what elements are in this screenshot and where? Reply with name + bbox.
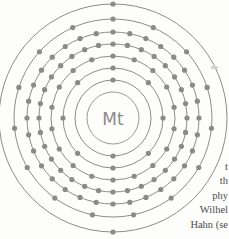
electron-shell-3-dot-10 bbox=[110, 177, 115, 182]
electron-shell-4-dot-30 bbox=[69, 54, 74, 59]
electron-shell-4-dot-17 bbox=[110, 189, 115, 194]
electron-shell-5-dot-10 bbox=[195, 132, 200, 137]
electron-shell-6-dot-9 bbox=[90, 212, 95, 217]
electron-shell-4-dot-8 bbox=[183, 101, 188, 106]
electron-shell-2-dot-8 bbox=[75, 80, 80, 85]
electron-shell-4-dot-25 bbox=[36, 115, 41, 120]
electron-shell-6-dot-7 bbox=[169, 195, 174, 200]
electron-shell-3-dot-11 bbox=[89, 174, 94, 179]
electron-shell-1-dot-1 bbox=[110, 77, 115, 82]
electron-shell-5-dot-1 bbox=[110, 29, 115, 34]
electron-shell-4-dot-2 bbox=[125, 43, 130, 48]
nucleus-element-symbol: Mt bbox=[102, 109, 124, 129]
electron-shell-5-dot-6 bbox=[182, 68, 187, 73]
electron-shell-3-dot-7 bbox=[164, 146, 169, 151]
electron-shell-4-dot-22 bbox=[49, 157, 54, 162]
side-text-line-4: Wilhel bbox=[180, 203, 228, 217]
electron-shell-3-dot-15 bbox=[49, 105, 54, 110]
electron-shell-6-dot-15 bbox=[70, 25, 75, 30]
electron-shell-3-dot-17 bbox=[71, 68, 76, 73]
electron-shell-4-dot-1 bbox=[110, 41, 115, 46]
electron-shell-5-dot-31 bbox=[77, 36, 82, 41]
side-text-line-2: th bbox=[180, 174, 228, 188]
electron-shell-6-dot-14 bbox=[37, 49, 42, 54]
electron-shell-3-dot-12 bbox=[71, 163, 76, 168]
electron-shell-6-dot-3 bbox=[184, 49, 189, 54]
scan-artifact-mark bbox=[211, 66, 218, 69]
electron-shell-4-dot-29 bbox=[58, 63, 63, 68]
electron-shell-7-dot-2 bbox=[110, 229, 115, 234]
side-text-line-5: Hahn (se bbox=[180, 218, 228, 232]
electron-shell-3-dot-6 bbox=[171, 126, 176, 131]
electron-shell-3-dot-1 bbox=[110, 53, 115, 58]
electron-shell-5-dot-19 bbox=[77, 195, 82, 200]
electron-shell-5-dot-18 bbox=[94, 200, 99, 205]
electron-shell-5-dot-21 bbox=[50, 176, 55, 181]
electron-shell-4-dot-19 bbox=[82, 184, 87, 189]
electron-shell-4-dot-5 bbox=[163, 63, 168, 68]
electron-shell-3-dot-16 bbox=[57, 84, 62, 89]
electron-shell-6-dot-1 bbox=[110, 16, 115, 21]
electron-shell-5-dot-14 bbox=[158, 187, 163, 192]
electron-shell-5-dot-20 bbox=[63, 187, 68, 192]
electron-shell-4-dot-24 bbox=[38, 130, 43, 135]
electron-shell-3-dot-4 bbox=[164, 84, 169, 89]
electron-shell-5-dot-16 bbox=[127, 200, 132, 205]
electron-shell-4-dot-14 bbox=[152, 177, 157, 182]
electron-shell-2-dot-2 bbox=[146, 80, 151, 85]
electron-shell-5-dot-23 bbox=[31, 148, 36, 153]
electron-shell-3-dot-9 bbox=[132, 174, 137, 179]
electron-shell-6-dot-8 bbox=[131, 212, 136, 217]
electron-shell-5-dot-30 bbox=[63, 44, 68, 49]
electron-shell-2-dot-5 bbox=[110, 165, 115, 170]
electron-shell-5-dot-3 bbox=[143, 36, 148, 41]
electron-shell-1-dot-2 bbox=[110, 153, 115, 158]
side-text-line-3: phy bbox=[180, 189, 228, 203]
electron-shell-4-dot-18 bbox=[96, 188, 101, 193]
electron-shell-5-dot-28 bbox=[39, 68, 44, 73]
electron-shell-4-dot-4 bbox=[152, 54, 157, 59]
electron-shell-2-dot-1 bbox=[110, 65, 115, 70]
electron-shell-4-dot-10 bbox=[183, 130, 188, 135]
electron-shell-2-dot-3 bbox=[160, 115, 165, 120]
electron-shell-4-dot-9 bbox=[184, 115, 189, 120]
electron-shell-4-dot-31 bbox=[82, 47, 87, 52]
electron-shell-6-dot-11 bbox=[25, 165, 30, 170]
electron-shell-3-dot-5 bbox=[171, 105, 176, 110]
electron-shell-5-dot-22 bbox=[39, 163, 44, 168]
electron-shell-2-dot-7 bbox=[60, 115, 65, 120]
electron-shell-4-dot-27 bbox=[42, 87, 47, 92]
side-text-line-1: t bbox=[180, 160, 228, 174]
electron-shell-5-dot-8 bbox=[195, 99, 200, 104]
electron-shell-5-dot-29 bbox=[50, 55, 55, 60]
electron-shell-6-dot-12 bbox=[12, 126, 17, 131]
scanned-page: Mt tthphyWilhelHahn (se bbox=[0, 0, 229, 239]
electron-shell-5-dot-32 bbox=[94, 31, 99, 36]
electron-shell-5-dot-15 bbox=[143, 195, 148, 200]
electron-shell-4-dot-23 bbox=[42, 144, 47, 149]
electron-shell-4-dot-20 bbox=[69, 177, 74, 182]
electron-shell-5-dot-7 bbox=[190, 82, 195, 87]
side-column-text: tthphyWilhelHahn (se bbox=[180, 160, 228, 232]
electron-shell-6-dot-13 bbox=[16, 85, 21, 90]
electron-shell-4-dot-7 bbox=[179, 87, 184, 92]
electron-shell-2-dot-6 bbox=[75, 151, 80, 156]
electron-shell-5-dot-9 bbox=[196, 115, 201, 120]
electron-shell-3-dot-13 bbox=[57, 146, 62, 151]
electron-shell-4-dot-6 bbox=[172, 74, 177, 79]
electron-shell-4-dot-11 bbox=[179, 144, 184, 149]
electron-shell-4-dot-28 bbox=[49, 74, 54, 79]
electron-shell-5-dot-5 bbox=[171, 55, 176, 60]
electron-shell-5-dot-13 bbox=[171, 176, 176, 181]
electron-shell-7-dot-1 bbox=[110, 1, 115, 6]
electron-shell-3-dot-3 bbox=[150, 68, 155, 73]
electron-shell-6-dot-10 bbox=[52, 195, 57, 200]
electron-shell-4-dot-16 bbox=[125, 188, 130, 193]
electron-shell-2-dot-4 bbox=[146, 151, 151, 156]
electron-shell-5-dot-2 bbox=[127, 31, 132, 36]
electron-shell-6-dot-5 bbox=[209, 126, 214, 131]
electron-shell-4-dot-3 bbox=[139, 47, 144, 52]
electron-shell-4-dot-26 bbox=[38, 101, 43, 106]
electron-shell-4-dot-12 bbox=[172, 157, 177, 162]
electron-shell-4-dot-32 bbox=[96, 43, 101, 48]
